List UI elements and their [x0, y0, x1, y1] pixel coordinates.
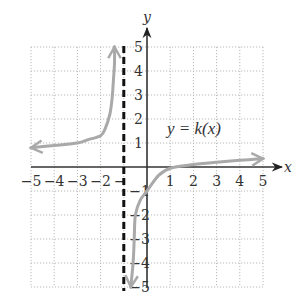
y-tick-label: 5 — [134, 39, 143, 55]
x-tick-label: −2 — [90, 173, 111, 189]
y-tick-label: 2 — [134, 111, 143, 127]
y-tick-label: 3 — [134, 87, 143, 103]
x-tick-label: 3 — [212, 173, 221, 189]
y-axis-label: y — [142, 9, 152, 25]
y-tick-label: −3 — [129, 231, 150, 247]
x-tick-label: 2 — [189, 173, 198, 189]
axes: x y — [31, 9, 292, 288]
x-tick-label: 1 — [166, 173, 175, 189]
function-label: y = k(x) — [165, 119, 221, 138]
x-axis-label: x — [284, 159, 292, 175]
function-graph: x y −5−4−3−2−12345 54321−1−2−3−4−5 y = k… — [0, 0, 305, 302]
y-tick-label: −2 — [129, 207, 150, 223]
x-tick-label: 4 — [235, 173, 244, 189]
y-tick-label: 4 — [134, 63, 143, 79]
x-tick-label: −4 — [44, 173, 65, 189]
x-tick-label: −3 — [67, 173, 88, 189]
curve-branch — [31, 47, 115, 148]
x-tick-label: −5 — [21, 173, 42, 189]
x-tick-label: 5 — [259, 173, 268, 189]
y-tick-label: 1 — [134, 135, 143, 151]
